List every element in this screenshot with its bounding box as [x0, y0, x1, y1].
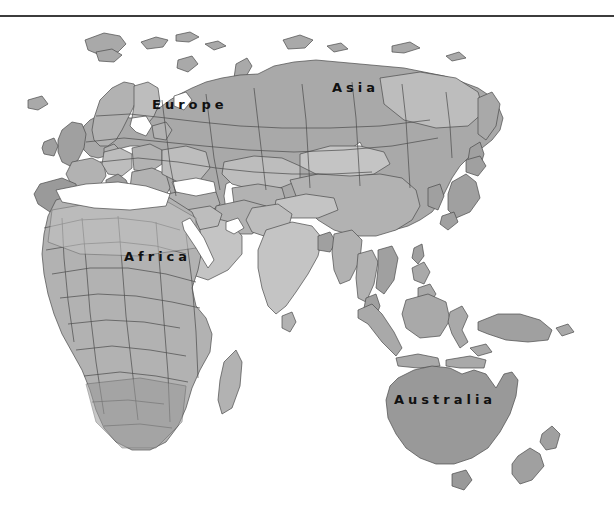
region-germany [102, 148, 132, 176]
region-ukraine [162, 146, 210, 182]
map-page: Europe Asia Africa Australia [0, 0, 614, 517]
top-horizontal-rule [0, 15, 614, 17]
world-map-svg [0, 22, 614, 517]
world-map[interactable]: Europe Asia Africa Australia [0, 22, 614, 517]
